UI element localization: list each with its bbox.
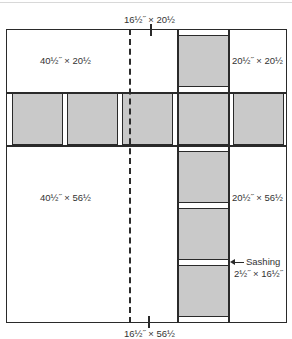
band-bottom-edge (6, 145, 287, 147)
page-top-rule (0, 2, 292, 3)
label-top-left-panel: 40½˝ × 20½ (40, 55, 91, 66)
label-top-dashed-section: 16½˝ × 20½ (124, 14, 175, 25)
column-block-lower-3 (178, 265, 229, 317)
column-block-lower-1 (178, 151, 229, 203)
top-dimension-tick (150, 24, 152, 36)
column-block-top (178, 35, 229, 87)
dashed-cut-line (129, 29, 133, 323)
column-block-lower-2 (178, 208, 229, 260)
label-top-right-panel: 20½˝ × 20½ (232, 55, 283, 66)
label-bottom-right-panel: 20½˝ × 56½ (232, 192, 283, 203)
label-bottom-dashed-section: 16½˝ × 56½ (124, 328, 175, 339)
band-block-4-center (178, 93, 229, 145)
bottom-dimension-tick (148, 316, 150, 328)
label-bottom-left-panel: 40½˝ × 56½ (40, 192, 91, 203)
label-sashing-size: 2½˝ × 16½˝ (234, 268, 283, 279)
band-block-2 (67, 93, 118, 145)
sashing-arrow-shaft (234, 262, 244, 263)
band-block-1 (12, 93, 63, 145)
label-sashing-title: Sashing (246, 256, 280, 267)
band-block-5 (233, 93, 284, 145)
